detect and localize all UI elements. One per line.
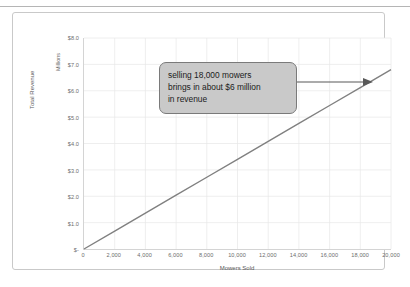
y-axis-tick-label: $4.0 bbox=[68, 141, 79, 147]
x-axis-tick-label: 8,000 bbox=[199, 252, 214, 258]
y-axis-tick-label: $- bbox=[74, 247, 79, 253]
x-axis-tick-label: 16,000 bbox=[321, 252, 339, 258]
x-axis-tick-label: 4,000 bbox=[137, 252, 152, 258]
callout-line-1: selling 18,000 mowers bbox=[168, 69, 289, 81]
x-axis-title: Mowers Sold bbox=[83, 265, 391, 271]
x-axis-tick-labels: 02,0004,0006,0008,00010,00012,00014,0001… bbox=[83, 252, 391, 264]
x-axis-tick-label: 0 bbox=[81, 252, 84, 258]
y-axis-tick-label: $8.0 bbox=[68, 35, 79, 41]
y-axis-tick-label: $7.0 bbox=[68, 62, 79, 68]
y-axis-tick-label: $5.0 bbox=[68, 115, 79, 121]
x-axis-tick-label: 18,000 bbox=[351, 252, 369, 258]
x-axis-tick-label: 20,000 bbox=[382, 252, 400, 258]
callout-arrow-icon bbox=[297, 73, 373, 91]
x-axis-tick-label: 10,000 bbox=[228, 252, 246, 258]
x-axis-tick-label: 14,000 bbox=[290, 252, 308, 258]
callout-line-3: in revenue bbox=[168, 93, 289, 105]
chart-frame: Millions Total Revenue $-$1.0$2.0$3.0$4.… bbox=[12, 12, 385, 270]
x-axis-tick-label: 6,000 bbox=[168, 252, 183, 258]
y-axis-tick-labels: $-$1.0$2.0$3.0$4.0$5.0$6.0$7.0$8.0 bbox=[49, 38, 79, 250]
y-axis-tick-label: $6.0 bbox=[68, 88, 79, 94]
y-axis-tick-label: $2.0 bbox=[68, 194, 79, 200]
callout-line-2: brings in about $6 million bbox=[168, 81, 289, 93]
y-axis-tick-label: $3.0 bbox=[68, 168, 79, 174]
x-axis-tick-label: 12,000 bbox=[259, 252, 277, 258]
annotation-callout: selling 18,000 mowers brings in about $6… bbox=[159, 62, 297, 114]
y-axis-title: Total Revenue bbox=[29, 71, 35, 109]
x-axis-tick-label: 2,000 bbox=[107, 252, 122, 258]
page-top-rule bbox=[0, 6, 410, 7]
y-axis-tick-label: $1.0 bbox=[68, 221, 79, 227]
